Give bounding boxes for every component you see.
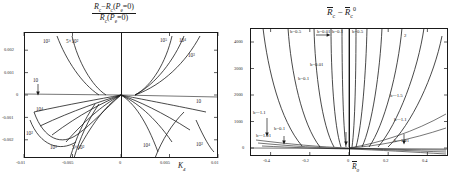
left-ytick-3: -0.001 bbox=[2, 115, 13, 120]
left-curve-label-1: 5×10² bbox=[66, 38, 78, 44]
left-xtick-4: 0.01 bbox=[211, 160, 219, 165]
right-curve-label-4: 2 bbox=[404, 33, 406, 38]
left-ytick-2: 0 bbox=[16, 92, 18, 97]
right-xtick-0: -0.4 bbox=[263, 158, 270, 163]
right-xtick-2: 0 bbox=[347, 158, 349, 163]
right-x-axis-label: R0 bbox=[352, 162, 359, 173]
left-curve-label-12: 10 bbox=[196, 98, 201, 104]
right-panel: Rc − Rc0 bbox=[228, 0, 455, 176]
right-curve-label-1: b=0.01 bbox=[317, 29, 331, 34]
right-xtick-3: 0.2 bbox=[383, 158, 389, 163]
right-xtick-1: -0.2 bbox=[302, 158, 309, 163]
left-xtick-3: 0.005 bbox=[160, 160, 170, 165]
left-xtick-1: -0.005 bbox=[62, 160, 73, 165]
left-x-axis-label-sub: 4 bbox=[183, 167, 185, 172]
right-x-axis-label-text: R bbox=[352, 162, 357, 171]
right-ytick-3: 3000 bbox=[234, 66, 243, 71]
left-panel: Rc−Rc(Pe=0) Rc(Pe=0) bbox=[0, 0, 228, 176]
left-curve-label-3: 10⁴ bbox=[179, 37, 186, 43]
figure-container: Rc−Rc(Pe=0) Rc(Pe=0) bbox=[0, 0, 455, 176]
left-curve-label-9: 5×10² bbox=[72, 144, 84, 150]
right-curve-label-12: b=0.1 bbox=[274, 126, 285, 131]
right-curve-label-0: b=0.5 bbox=[290, 29, 301, 34]
left-plot-curves bbox=[0, 0, 228, 176]
right-ytick-2: 2000 bbox=[234, 92, 243, 97]
left-curve-label-11: 10² bbox=[196, 141, 203, 147]
left-ytick-0: 0.002 bbox=[4, 47, 14, 52]
right-ytick-0: 0 bbox=[242, 145, 244, 150]
right-curve-label-11: b=-1.01 bbox=[394, 138, 409, 143]
left-curve-label-0: 10³ bbox=[43, 38, 50, 44]
right-curve-label-3: b=0.5 bbox=[352, 29, 363, 34]
left-xtick-2: 0 bbox=[119, 160, 121, 165]
left-curve-label-4: 10³ bbox=[188, 52, 195, 58]
right-curve-label-2: b=0.1 bbox=[332, 29, 343, 34]
left-curve-label-10: 10⁴ bbox=[143, 142, 150, 148]
right-xtick-4: 0.4 bbox=[422, 158, 428, 163]
left-curve-label-5: 10 bbox=[33, 77, 38, 83]
right-curve-label-5: b=0.01 bbox=[310, 62, 324, 67]
right-ytick-4: 4000 bbox=[234, 39, 243, 44]
right-curve-label-6: b=0.1 bbox=[298, 76, 309, 81]
right-curve-label-10: b=-1.01 bbox=[256, 133, 271, 138]
left-curve-label-6: 10⁴ bbox=[36, 106, 43, 112]
left-ytick-4: -0.002 bbox=[2, 137, 13, 142]
right-curve-label-9: b=-1.1 bbox=[394, 117, 407, 122]
right-curve-label-8: b=-1.5 bbox=[390, 93, 403, 98]
right-plot-curves bbox=[228, 0, 455, 176]
left-ytick-1: 0.001 bbox=[4, 70, 14, 75]
left-curve-label-2: 10⁵ bbox=[160, 37, 167, 43]
left-x-axis-label: K4 bbox=[178, 161, 185, 172]
left-curve-label-8: 10³ bbox=[50, 144, 57, 150]
left-xtick-0: -0.01 bbox=[16, 160, 25, 165]
right-curve-label-7: b=-1.1 bbox=[253, 110, 266, 115]
right-ytick-1: 1000 bbox=[234, 119, 243, 124]
left-curve-label-7: 10² bbox=[26, 130, 33, 136]
